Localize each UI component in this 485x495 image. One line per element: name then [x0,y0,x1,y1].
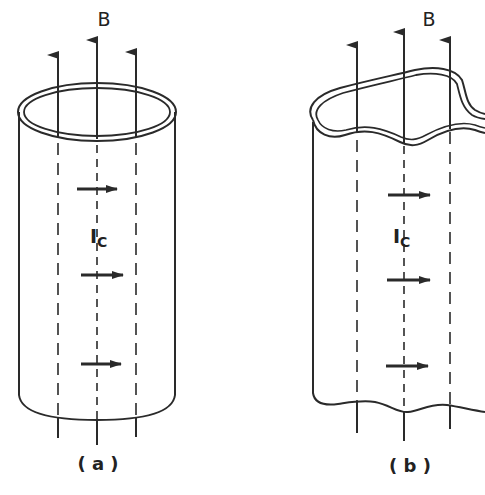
panel-a: B IC ( a ) [18,8,176,474]
current-label: IC [393,225,410,250]
caption-a: ( a ) [77,453,118,474]
field-label-b: B [97,8,110,30]
irregular-body [313,122,485,412]
figure-canvas: B IC ( a ) B [0,0,485,495]
caption-b: ( b ) [389,455,431,476]
field-label-b: B [422,8,435,30]
current-label: IC [90,225,107,250]
irregular-rim-inner [316,74,485,120]
panel-b: B IC ( b ) [310,8,485,476]
